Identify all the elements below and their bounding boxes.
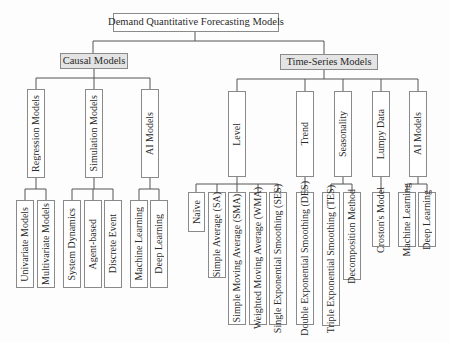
trend-node: Trend (296, 91, 314, 177)
lumpy-data-node: Lumpy Data (372, 91, 390, 177)
triple-exponential-smoothing-leaf: Triple Exponential Smoothing (TES) (322, 192, 340, 326)
univariate-models-leaf: Univariate Models (16, 200, 34, 288)
double-exponential-smoothing-leaf: Double Exponential Smoothing (DES) (296, 192, 314, 325)
leaf-label: Single Exponential Smoothing (SES) (273, 184, 283, 333)
leaf-label: Naïve (192, 200, 202, 224)
leaf-label: Deep Learning (154, 214, 164, 274)
level-node: Level (228, 91, 246, 177)
leaf-label: System Dynamics (67, 208, 77, 281)
multivariate-models-leaf: Multivariate Models (37, 200, 55, 288)
leaf-label: Simple Average (SA) (212, 192, 222, 277)
leaf-label: Triple Exponential Smoothing (TES) (326, 185, 336, 333)
time-series-models-node: Time-Series Models (280, 54, 378, 70)
leaf-label: Discrete Event (108, 214, 118, 273)
simulation-models-node: Simulation Models (85, 89, 103, 178)
decomposition-method-leaf: Decomposition Method (343, 192, 361, 280)
seasonality-node: Seasonality (334, 91, 352, 177)
leaf-label: Simple Moving Average (SMA) (232, 194, 242, 322)
leaf-label: Machine Learning (134, 207, 144, 281)
causal-deep-learning-leaf: Deep Learning (150, 200, 168, 288)
forecasting-models-diagram: Demand Quantitative Forecasting Models C… (0, 0, 449, 343)
leaf-label: Agent-based (88, 219, 98, 270)
leaf-label: Machine Learning (402, 183, 412, 257)
root-label: Demand Quantitative Forecasting Models (108, 17, 284, 28)
regression-models-node: Regression Models (27, 89, 45, 178)
leaf-label: Deep Learning (422, 190, 432, 250)
leaf-label: Multivariate Models (41, 203, 51, 285)
node-label: Simulation Models (89, 95, 99, 171)
ts-deep-learning-leaf: Deep Learning (418, 192, 436, 247)
single-exponential-smoothing-leaf: Single Exponential Smoothing (SES) (269, 192, 287, 325)
causal-models-label: Causal Models (63, 56, 126, 67)
time-series-models-label: Time-Series Models (286, 57, 371, 68)
causal-models-node: Causal Models (60, 53, 128, 69)
ts-ai-models-node: AI Models (409, 91, 427, 177)
leaf-label: Double Exponential Smoothing (DES) (300, 181, 310, 336)
weighted-moving-average-leaf: Weighted Moving Average (WMA) (249, 192, 267, 325)
leaf-label: Univariate Models (20, 207, 30, 282)
ts-machine-learning-leaf: Machine Learning (398, 192, 416, 247)
discrete-event-leaf: Discrete Event (104, 200, 122, 288)
node-label: AI Models (145, 112, 155, 155)
leaf-label: Decomposition Method (347, 189, 357, 284)
causal-machine-learning-leaf: Machine Learning (130, 200, 148, 288)
causal-ai-models-node: AI Models (141, 89, 159, 178)
node-label: Trend (300, 122, 310, 146)
root-node: Demand Quantitative Forecasting Models (113, 13, 279, 32)
node-label: Lumpy Data (376, 109, 386, 159)
node-label: Level (232, 123, 242, 146)
leaf-label: Croston's Model (376, 187, 386, 253)
naive-leaf: Naïve (188, 192, 205, 232)
agent-based-leaf: Agent-based (84, 200, 102, 288)
node-label: Regression Models (31, 95, 41, 172)
simple-moving-average-leaf: Simple Moving Average (SMA) (228, 192, 246, 325)
simple-average-leaf: Simple Average (SA) (208, 192, 226, 278)
node-label: Seasonality (338, 111, 348, 157)
leaf-label: Weighted Moving Average (WMA) (253, 187, 263, 329)
crostons-model-leaf: Croston's Model (372, 192, 390, 247)
system-dynamics-leaf: System Dynamics (63, 200, 81, 288)
node-label: AI Models (413, 112, 423, 155)
